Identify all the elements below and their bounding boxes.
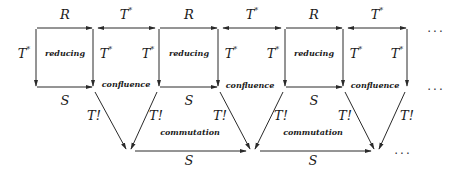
label-S-bottom-1: S xyxy=(185,154,194,167)
label-R-2: R xyxy=(184,8,194,21)
label-Tbang-5: T! xyxy=(338,109,352,122)
ellipsis-middle: ... xyxy=(427,79,444,93)
region-confluence-2: confluence xyxy=(226,81,275,89)
region-confluence-1: confluence xyxy=(102,80,151,88)
label-S-1: S xyxy=(61,94,70,107)
label-Tstar-top-1: T* xyxy=(120,7,133,20)
ellipsis-bottom: ... xyxy=(394,143,411,157)
label-Tstar-side-3: T* xyxy=(142,46,155,59)
label-Tstar-side-6: T* xyxy=(350,46,363,59)
region-reducing-1: reducing xyxy=(45,49,85,57)
ellipsis-top: ... xyxy=(427,21,444,35)
label-Tstar-side-4: T* xyxy=(225,46,238,59)
label-Tstar-top-3: T* xyxy=(371,7,384,20)
label-Tbang-4: T! xyxy=(274,109,288,122)
label-Tbang-2: T! xyxy=(149,109,163,122)
label-S-bottom-2: S xyxy=(309,154,318,167)
label-Tstar-top-2: T* xyxy=(246,7,259,20)
label-Tstar-side-7: T* xyxy=(391,46,404,59)
region-reducing-2: reducing xyxy=(169,49,209,57)
label-S-2: S xyxy=(185,94,194,107)
region-confluence-3: confluence xyxy=(351,81,400,89)
label-S-3: S xyxy=(310,94,319,107)
label-Tbang-3: T! xyxy=(213,109,227,122)
region-commutation-1: commutation xyxy=(160,128,220,136)
label-Tbang-6: T! xyxy=(400,109,414,122)
label-Tstar-side-1: T* xyxy=(18,46,31,59)
label-R-3: R xyxy=(309,8,319,21)
label-Tstar-side-5: T* xyxy=(267,46,280,59)
label-Tstar-side-2: T* xyxy=(100,46,113,59)
region-reducing-3: reducing xyxy=(294,49,334,57)
region-commutation-2: commutation xyxy=(283,128,343,136)
label-Tbang-1: T! xyxy=(87,109,101,122)
label-R-1: R xyxy=(60,8,70,21)
